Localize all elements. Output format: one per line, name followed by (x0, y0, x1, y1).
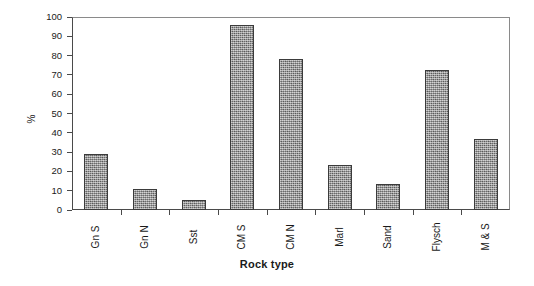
bar (133, 189, 157, 210)
y-axis-tick-label: 100 (32, 10, 62, 23)
bar (328, 165, 352, 210)
bar (376, 184, 400, 210)
bar-chart: % 0102030405060708090100 Gn SGn NSstCM S… (0, 0, 534, 286)
x-axis-category-label-text: CM N (285, 224, 297, 250)
bar (84, 154, 108, 210)
x-axis-category-label-text: Gn N (139, 225, 151, 248)
x-axis-category-label: Marl (315, 214, 364, 260)
x-axis-category-label-text: CM S (236, 225, 248, 250)
x-axis-category-label: CM N (267, 214, 316, 260)
bar (230, 25, 254, 210)
bar (182, 200, 206, 210)
x-axis-category-label-text: Flysch (431, 223, 443, 252)
bars-layer (72, 17, 510, 210)
x-axis-category-label: CM S (218, 214, 267, 260)
y-axis-tick-label: 10 (32, 184, 62, 197)
x-axis-category-label: Gn S (72, 214, 121, 260)
x-axis-category-label: Gn N (121, 214, 170, 260)
x-axis-category-label-text: Gn S (90, 226, 102, 249)
x-axis-title: Rock type (0, 258, 534, 270)
y-axis-ticks: 0102030405060708090100 (0, 0, 72, 228)
x-axis-category-label-text: Marl (334, 227, 346, 246)
y-axis-tick-label: 70 (32, 68, 62, 81)
y-axis-tick-label: 60 (32, 87, 62, 100)
y-axis-tick-label: 0 (32, 203, 62, 216)
y-axis-tick-label: 20 (32, 164, 62, 177)
y-axis-tick-label: 40 (32, 126, 62, 139)
x-axis-category-label: Sand (364, 214, 413, 260)
x-axis-category-label-text: Sand (382, 225, 394, 248)
x-axis-category-label: M & S (461, 214, 510, 260)
y-axis-tick-label: 30 (32, 145, 62, 158)
y-axis-tick-label: 90 (32, 29, 62, 42)
x-axis-category-labels: Gn SGn NSstCM SCM NMarlSandFlyschM & S (72, 214, 510, 260)
bar (474, 139, 498, 210)
bar (279, 59, 303, 211)
x-axis-category-label: Sst (169, 214, 218, 260)
y-axis-tick-label: 50 (32, 107, 62, 120)
x-axis-category-label: Flysch (413, 214, 462, 260)
y-axis-tick-label: 80 (32, 49, 62, 62)
bar (425, 70, 449, 210)
x-axis-category-label-text: M & S (480, 223, 492, 250)
x-axis-category-label-text: Sst (188, 230, 200, 244)
